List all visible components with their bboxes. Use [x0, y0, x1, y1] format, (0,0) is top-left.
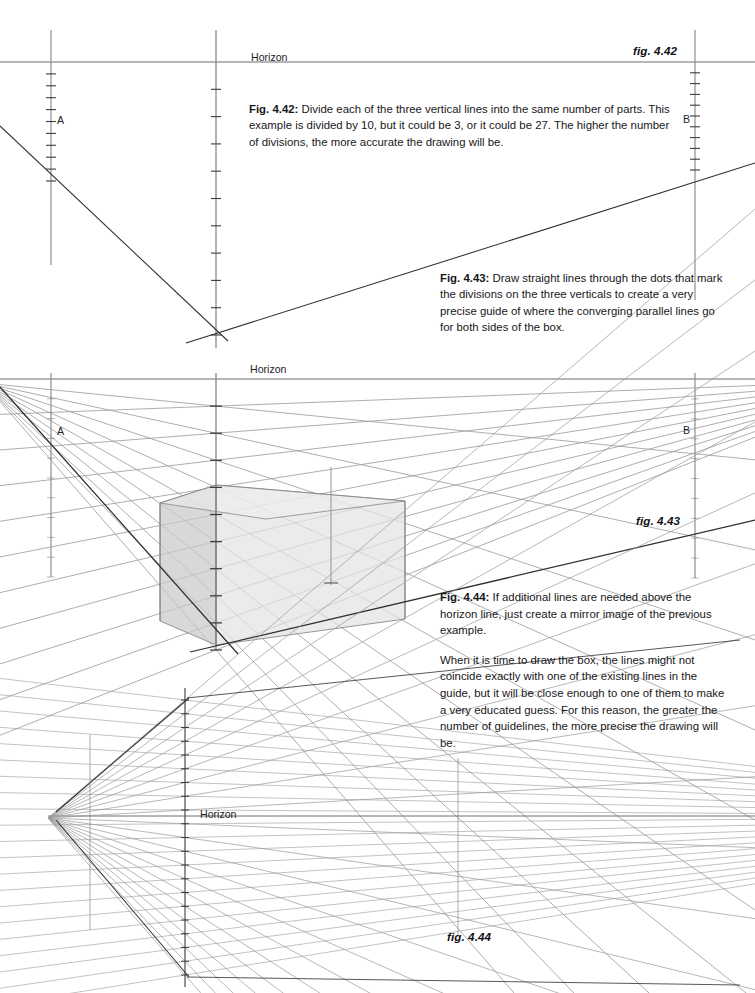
- point-label-a-fig442: A: [57, 114, 64, 126]
- fan-ray-mirror-fig444: [0, 816, 755, 828]
- envelope-right-lower-fig444: [187, 977, 740, 985]
- caption-lead-442: Fig. 4.42:: [249, 103, 298, 115]
- fan-ray-fig444: [48, 818, 755, 993]
- figure-label-443: fig. 4.43: [636, 514, 680, 527]
- fan-ray-fig444: [48, 818, 755, 993]
- horizon-label-fig443: Horizon: [250, 363, 287, 375]
- fan-ray-fig444: [48, 818, 755, 993]
- caption-fig444: Fig. 4.44: If additional lines are neede…: [440, 589, 730, 751]
- fan-ray-fig444: [48, 818, 755, 993]
- fan-ray-fig444: [48, 818, 755, 993]
- horizon-label-fig444: Horizon: [200, 808, 237, 820]
- figure-label-442: fig. 4.42: [633, 44, 677, 57]
- figure-label-444: fig. 4.44: [447, 930, 491, 943]
- horizon-label-fig442: Horizon: [251, 51, 288, 63]
- fan-ray-fig444: [48, 818, 755, 993]
- fan-ray-fig444: [48, 818, 755, 993]
- caption-body-444-second: When it is time to draw the box, the lin…: [440, 654, 724, 749]
- perspective-guide-page: fig. 4.42 fig. 4.43 fig. 4.44 Horizon Ho…: [0, 0, 755, 993]
- caption-fig442: Fig. 4.42: Divide each of the three vert…: [249, 101, 679, 150]
- fan-ray-mirror-fig444: [0, 816, 755, 910]
- caption-fig443: Fig. 4.43: Draw straight lines through t…: [440, 270, 730, 336]
- diagonal-left-fig442: [0, 126, 228, 341]
- fan-ray-fig444: [48, 818, 755, 993]
- fan-ray-fig444: [48, 818, 755, 993]
- point-label-b-fig443: B: [683, 424, 690, 436]
- fan-ray-fig444: [48, 818, 755, 993]
- fan-ray-mirror-fig444: [0, 807, 755, 816]
- point-label-a-fig443: A: [57, 425, 64, 437]
- caption-lead-443: Fig. 4.43:: [440, 272, 489, 284]
- caption-body-442: Divide each of the three vertical lines …: [249, 103, 670, 148]
- fan-ray-fig444: [48, 818, 755, 993]
- point-label-b-fig442: B: [683, 113, 690, 125]
- caption-lead-444: Fig. 4.44:: [440, 591, 489, 603]
